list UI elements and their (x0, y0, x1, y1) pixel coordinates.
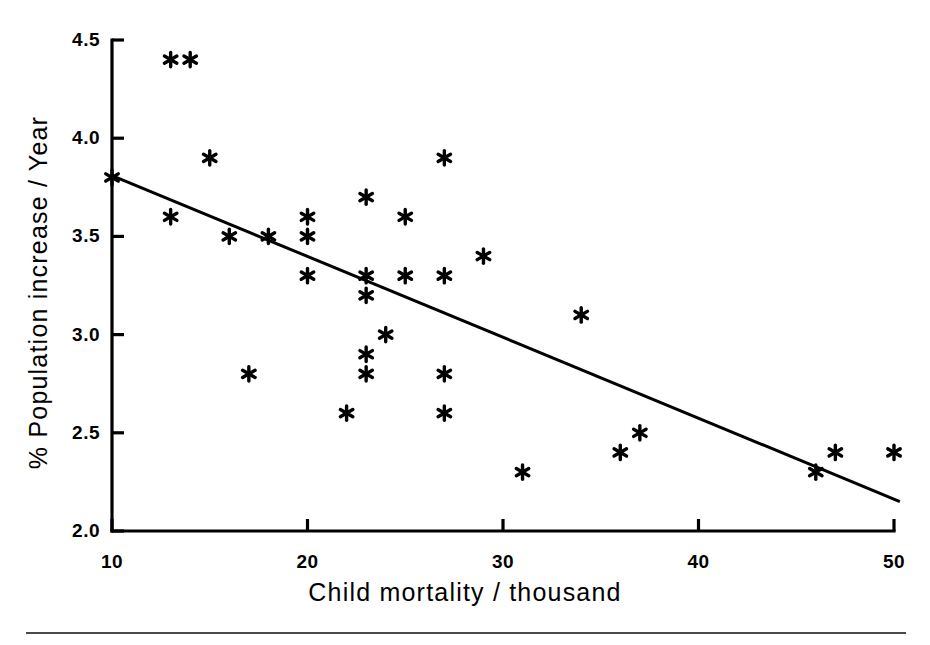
data-point-marker (243, 367, 255, 381)
data-point-marker (399, 268, 411, 282)
y-tick-label: 3.0 (48, 324, 100, 346)
data-point-marker (477, 249, 489, 263)
data-point-marker (360, 190, 372, 204)
data-point-marker (301, 268, 313, 282)
data-point-marker (379, 327, 391, 341)
data-point-marker (516, 465, 528, 479)
data-point-marker (360, 367, 372, 381)
x-tick-label: 50 (883, 551, 905, 573)
y-tick-label: 4.5 (48, 29, 100, 51)
axes-group (110, 38, 895, 532)
data-point-marker (575, 308, 587, 322)
data-point-marker (301, 210, 313, 224)
data-point-marker (164, 52, 176, 66)
plot-canvas (0, 0, 930, 645)
data-point-marker (829, 445, 841, 459)
data-point-marker (223, 229, 235, 243)
data-point-marker (888, 445, 900, 459)
data-points-group (106, 52, 900, 479)
data-point-marker (340, 406, 352, 420)
data-point-marker (360, 288, 372, 302)
y-tick-label: 4.0 (48, 127, 100, 149)
regression-line (112, 176, 900, 502)
data-point-marker (614, 445, 626, 459)
x-tick-label: 40 (687, 551, 709, 573)
footer-divider (26, 632, 906, 634)
x-tick-label: 10 (101, 551, 123, 573)
y-tick-label: 2.0 (48, 520, 100, 542)
y-tick-label: 2.5 (48, 422, 100, 444)
x-tick-label: 30 (492, 551, 514, 573)
scatter-plot-figure: 2.02.53.03.54.04.5 1020304050 Child mort… (0, 0, 930, 645)
trend-line-group (112, 176, 900, 502)
y-axis-title: % Population increase / Year (24, 33, 53, 553)
data-point-marker (399, 210, 411, 224)
data-point-marker (184, 52, 196, 66)
x-axis-title: Child mortality / thousand (0, 578, 930, 607)
data-point-marker (438, 406, 450, 420)
y-tick-label: 3.5 (48, 225, 100, 247)
data-point-marker (634, 426, 646, 440)
data-point-marker (438, 268, 450, 282)
data-point-marker (204, 151, 216, 165)
data-point-marker (360, 268, 372, 282)
data-point-marker (438, 151, 450, 165)
data-point-marker (438, 367, 450, 381)
data-point-marker (360, 347, 372, 361)
data-point-marker (301, 229, 313, 243)
data-point-marker (164, 210, 176, 224)
x-tick-label: 20 (296, 551, 318, 573)
